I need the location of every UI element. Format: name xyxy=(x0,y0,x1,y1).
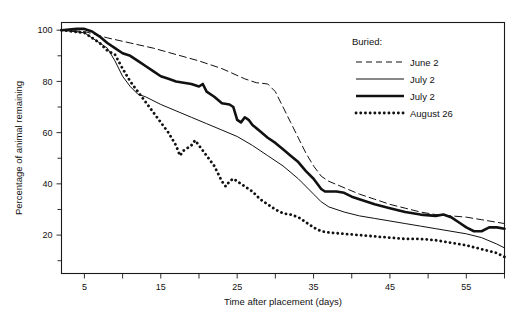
line-chart: 51525354555 20406080100 Time after place… xyxy=(0,0,529,328)
x-tick-label: 15 xyxy=(156,282,166,292)
figure-container: 51525354555 20406080100 Time after place… xyxy=(0,0,529,328)
y-tick-label: 80 xyxy=(42,77,52,87)
y-axis-title: Percentage of animal remaining xyxy=(13,81,24,215)
y-tick-label: 60 xyxy=(42,128,52,138)
x-tick-label: 45 xyxy=(385,282,395,292)
legend-label: July 2 xyxy=(410,91,435,102)
y-tick-label: 20 xyxy=(42,230,52,240)
x-axis-title: Time after placement (days) xyxy=(224,296,342,307)
x-tick-label: 55 xyxy=(461,282,471,292)
x-tick-label: 35 xyxy=(309,282,319,292)
y-tick-label: 100 xyxy=(37,25,52,35)
legend-label: June 2 xyxy=(410,57,439,68)
chart-background xyxy=(0,0,529,328)
y-tick-label: 40 xyxy=(42,179,52,189)
x-tick-label: 25 xyxy=(232,282,242,292)
x-tick-label: 5 xyxy=(82,282,87,292)
legend-label: August 26 xyxy=(410,108,453,119)
legend-label: July 2 xyxy=(410,74,435,85)
legend-title: Buried: xyxy=(352,36,382,47)
